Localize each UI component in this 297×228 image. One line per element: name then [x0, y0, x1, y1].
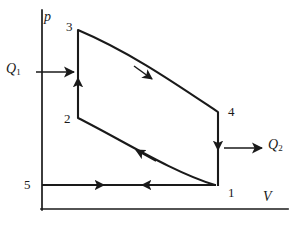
state-point-label-3: 3 — [66, 20, 73, 33]
heat-input-subscript: 1 — [16, 67, 21, 77]
pv-diagram-figure: p V 3 2 4 1 5 Q1 Q2 — [0, 0, 297, 228]
process-1-to-2-curve — [78, 118, 215, 185]
heat-output-symbol: Q — [268, 137, 278, 152]
pressure-axis-label: p — [44, 10, 51, 24]
state-point-label-1: 1 — [228, 186, 235, 199]
heat-output-subscript: 2 — [278, 143, 283, 153]
heat-input-symbol: Q — [6, 61, 16, 76]
state-point-label-5: 5 — [24, 178, 31, 191]
volume-axis-label: V — [263, 190, 272, 204]
state-point-label-2: 2 — [64, 112, 71, 125]
process-1-to-2-arrow — [136, 150, 156, 161]
process-3-to-4-curve — [78, 30, 218, 112]
state-point-label-4: 4 — [228, 105, 235, 118]
heat-output-label: Q2 — [268, 138, 283, 152]
heat-input-label: Q1 — [6, 62, 21, 76]
pv-diagram-canvas — [0, 0, 297, 228]
